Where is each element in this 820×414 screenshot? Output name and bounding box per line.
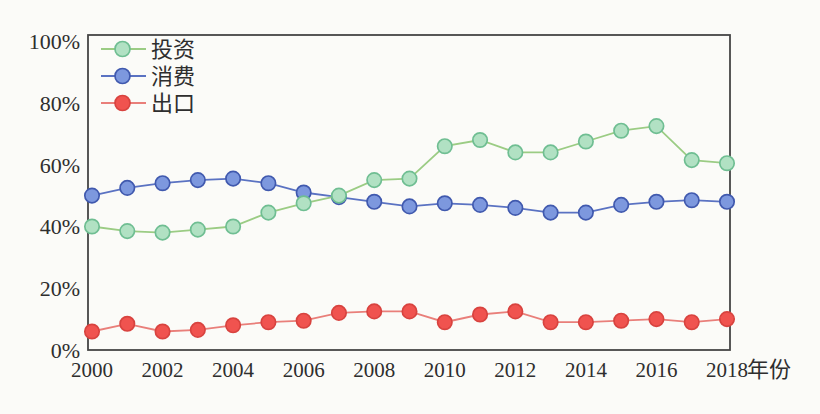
y-tick-label: 20%	[40, 276, 80, 301]
legend-label-investment: 投资	[151, 37, 195, 62]
data-point-investment	[473, 133, 487, 147]
x-tick-label: 2006	[283, 358, 325, 382]
data-point-investment	[402, 171, 416, 185]
data-point-export	[296, 314, 310, 328]
x-tick-label: 2004	[212, 358, 255, 382]
data-point-export	[120, 317, 134, 331]
data-point-consumption	[367, 195, 381, 209]
data-point-investment	[508, 145, 522, 159]
x-tick-label: 2000	[71, 358, 113, 382]
x-tick-label: 2014	[565, 358, 608, 382]
data-point-export	[579, 315, 593, 329]
data-point-consumption	[649, 195, 663, 209]
data-point-consumption	[614, 198, 628, 212]
data-point-export	[720, 312, 734, 326]
data-point-investment	[261, 205, 275, 219]
data-point-export	[367, 304, 381, 318]
data-point-export	[261, 315, 275, 329]
legend-label-export: 出口	[151, 91, 195, 116]
x-tick-label: 2016	[635, 358, 677, 382]
y-tick-label: 40%	[40, 214, 80, 239]
x-tick-label: 2018	[706, 358, 748, 382]
data-point-consumption	[579, 205, 593, 219]
data-point-investment	[685, 153, 699, 167]
data-point-export	[685, 315, 699, 329]
data-point-export	[332, 306, 346, 320]
data-point-export	[508, 304, 522, 318]
data-point-investment	[543, 145, 557, 159]
chart-figure: 0%20%40%60%80%100%2000200220042006200820…	[0, 0, 820, 414]
data-point-export	[543, 315, 557, 329]
data-point-export	[402, 304, 416, 318]
data-point-consumption	[191, 173, 205, 187]
data-point-investment	[720, 156, 734, 170]
data-point-consumption	[155, 176, 169, 190]
data-point-consumption	[226, 171, 240, 185]
data-point-export	[85, 324, 99, 338]
data-point-export	[226, 318, 240, 332]
legend-marker-export	[115, 96, 130, 111]
data-point-investment	[614, 124, 628, 138]
data-point-investment	[120, 224, 134, 238]
data-point-consumption	[261, 176, 275, 190]
data-point-export	[438, 315, 452, 329]
x-tick-label: 2012	[494, 358, 536, 382]
data-point-investment	[191, 222, 205, 236]
y-tick-label: 60%	[40, 153, 80, 178]
data-point-investment	[649, 119, 663, 133]
legend-marker-investment	[115, 42, 130, 57]
data-point-consumption	[720, 195, 734, 209]
data-point-export	[649, 312, 663, 326]
data-point-investment	[579, 134, 593, 148]
data-point-consumption	[543, 205, 557, 219]
data-point-export	[155, 324, 169, 338]
data-point-consumption	[685, 193, 699, 207]
x-tick-label: 2010	[424, 358, 466, 382]
line-chart: 0%20%40%60%80%100%2000200220042006200820…	[0, 0, 820, 414]
data-point-investment	[155, 225, 169, 239]
data-point-export	[191, 323, 205, 337]
data-point-consumption	[438, 196, 452, 210]
y-tick-label: 100%	[29, 29, 80, 54]
data-point-investment	[85, 219, 99, 233]
x-tick-label: 2002	[142, 358, 184, 382]
data-point-export	[473, 307, 487, 321]
data-point-consumption	[508, 201, 522, 215]
x-tick-label: 2008	[353, 358, 395, 382]
data-point-export	[614, 314, 628, 328]
data-point-consumption	[120, 181, 134, 195]
data-point-investment	[296, 196, 310, 210]
data-point-consumption	[85, 188, 99, 202]
data-point-investment	[367, 173, 381, 187]
data-point-consumption	[473, 198, 487, 212]
y-tick-label: 80%	[40, 91, 80, 116]
legend-label-consumption: 消费	[151, 64, 195, 89]
data-point-consumption	[402, 199, 416, 213]
data-point-investment	[438, 139, 452, 153]
legend-marker-consumption	[115, 69, 130, 84]
data-point-investment	[332, 188, 346, 202]
x-axis-title: 年份	[747, 357, 791, 382]
data-point-investment	[226, 219, 240, 233]
